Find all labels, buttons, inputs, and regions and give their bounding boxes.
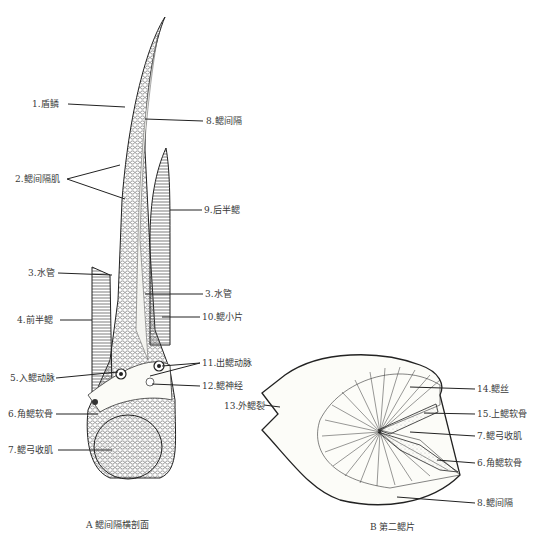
label-posterior-hemibranch: 9.后半鳃 (204, 205, 240, 215)
label-water-tube-left: 3.水管 (28, 268, 55, 278)
caption-panel-b: B 第二鳃片 (370, 520, 415, 533)
label-placoid-scale: 1.盾鳞 (32, 99, 59, 109)
label-epibranchial: 15.上鳃软骨 (477, 409, 527, 419)
caption-panel-a: A 鳃间隔横剖面 (86, 518, 149, 531)
label-afferent-artery: 5.入鳃动脉 (10, 373, 55, 383)
label-gill-lamella: 10.鳃小片 (202, 312, 243, 322)
gill-diagram (0, 0, 537, 544)
label-ceratobranchial: 6.角鳃软骨 (8, 409, 53, 419)
label-anterior-hemibranch: 4.前半鳃 (17, 315, 53, 325)
panel-a-septum (87, 17, 175, 479)
panel-b-gill (262, 355, 460, 505)
label-interbranchial-septum: 8.鳃间隔 (206, 116, 242, 126)
label-efferent-artery: 11.出鳃动脉 (202, 358, 252, 368)
label-arch-adductor: 7.鳃弓收肌 (8, 445, 53, 455)
label-arch-adductor-b: 7.鳃弓收肌 (477, 431, 522, 441)
label-external-gill-slit: 13.外鳃裂 (224, 401, 265, 411)
label-ceratobranchial-b: 6.角鳃软骨 (477, 458, 522, 468)
label-water-tube-right: 3.水管 (205, 289, 232, 299)
label-branchial-nerve: 12.鳃神经 (202, 381, 243, 391)
label-gill-filament: 14.鳃丝 (477, 384, 509, 394)
label-septum-muscle: 2.鳃间隔肌 (15, 174, 60, 184)
label-septum-b: 8.鳃间隔 (477, 498, 513, 508)
